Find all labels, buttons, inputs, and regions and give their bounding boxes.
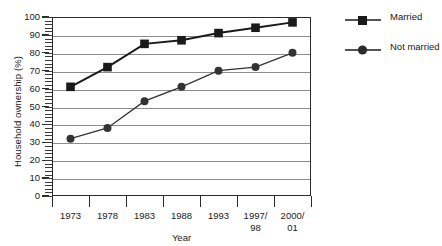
y-minor-tick	[45, 53, 52, 54]
y-minor-tick	[45, 150, 52, 151]
x-axis-tick	[52, 196, 53, 207]
y-minor-tick	[45, 160, 52, 161]
x-axis-title: Year	[52, 232, 311, 243]
y-axis-minor-ticks	[45, 17, 52, 196]
y-minor-tick	[45, 175, 52, 176]
y-tick-label: 70	[10, 66, 40, 76]
x-axis-tick	[200, 196, 201, 207]
y-minor-tick	[45, 196, 52, 197]
data-point	[178, 83, 186, 91]
legend-marker-square-icon	[344, 14, 382, 26]
y-minor-tick	[45, 124, 52, 125]
x-tick-label-line1: 1973	[60, 210, 81, 221]
x-axis-tick	[163, 196, 164, 207]
data-point	[251, 23, 260, 32]
data-point	[177, 36, 186, 45]
data-point	[252, 63, 260, 71]
chart-legend: Married Not married	[344, 8, 442, 68]
legend-label-not-married: Not married	[390, 41, 440, 52]
data-point	[288, 18, 297, 27]
x-tick-label-line1: 2000/	[281, 210, 305, 221]
y-minor-tick	[45, 189, 52, 190]
legend-entry-not-married: Not married	[344, 38, 442, 68]
y-minor-tick	[45, 135, 52, 136]
legend-marker-circle-icon	[344, 44, 382, 56]
y-minor-tick	[45, 110, 52, 111]
x-tick-label-line2: 01	[287, 222, 298, 233]
y-minor-tick	[45, 35, 52, 36]
y-minor-tick	[45, 42, 52, 43]
data-point	[103, 63, 112, 72]
x-tick-label-line1: 1978	[97, 210, 118, 221]
y-minor-tick	[45, 171, 52, 172]
y-minor-tick	[45, 24, 52, 25]
x-tick-label: 1973	[51, 210, 91, 222]
y-minor-tick	[45, 103, 52, 104]
x-tick-label-line1: 1988	[171, 210, 192, 221]
y-tick-label: 10	[10, 173, 40, 183]
x-axis-ticks	[52, 196, 311, 210]
x-axis-tick	[274, 196, 275, 207]
y-minor-tick	[45, 121, 52, 122]
legend-label-married: Married	[390, 11, 422, 22]
y-minor-tick	[45, 31, 52, 32]
data-point	[140, 40, 149, 49]
data-point	[141, 97, 149, 105]
y-minor-tick	[45, 56, 52, 57]
y-minor-tick	[45, 17, 52, 18]
x-axis-tick	[311, 196, 312, 207]
x-axis-tick	[89, 196, 90, 207]
legend-entry-married: Married	[344, 8, 442, 38]
data-point	[214, 29, 223, 38]
y-minor-tick	[45, 146, 52, 147]
y-minor-tick	[45, 178, 52, 179]
y-minor-tick	[45, 71, 52, 72]
y-minor-tick	[45, 78, 52, 79]
y-minor-tick	[45, 85, 52, 86]
y-minor-tick	[45, 64, 52, 65]
y-minor-tick	[45, 21, 52, 22]
x-tick-label-line1: 1997/	[244, 210, 268, 221]
x-tick-label-line2: 98	[250, 222, 261, 233]
x-axis-tick	[126, 196, 127, 207]
y-minor-tick	[45, 67, 52, 68]
y-minor-tick	[45, 185, 52, 186]
y-minor-tick	[45, 74, 52, 75]
y-minor-tick	[45, 139, 52, 140]
y-minor-tick	[45, 60, 52, 61]
y-tick-label: 90	[10, 30, 40, 40]
x-tick-label: 1988	[162, 210, 202, 222]
y-minor-tick	[45, 117, 52, 118]
x-tick-label: 1983	[125, 210, 165, 222]
y-tick-label: 50	[10, 102, 40, 112]
x-tick-label: 1993	[199, 210, 239, 222]
chart-figure: Household ownership (%) 0102030405060708…	[0, 0, 442, 246]
y-tick-label: 60	[10, 84, 40, 94]
x-tick-label: 2000/01	[273, 210, 313, 233]
y-minor-tick	[45, 157, 52, 158]
y-minor-tick	[45, 81, 52, 82]
y-minor-tick	[45, 132, 52, 133]
data-point	[66, 83, 75, 92]
y-minor-tick	[45, 114, 52, 115]
y-minor-tick	[45, 46, 52, 47]
y-minor-tick	[45, 192, 52, 193]
data-point	[104, 124, 112, 132]
y-minor-tick	[45, 128, 52, 129]
y-minor-tick	[45, 89, 52, 90]
y-minor-tick	[45, 28, 52, 29]
y-minor-tick	[45, 99, 52, 100]
data-point	[215, 67, 223, 75]
y-tick-label: 0	[10, 191, 40, 201]
y-minor-tick	[45, 92, 52, 93]
y-minor-tick	[45, 182, 52, 183]
data-point	[289, 49, 297, 57]
y-tick-label: 40	[10, 119, 40, 129]
y-minor-tick	[45, 39, 52, 40]
y-minor-tick	[45, 96, 52, 97]
y-tick-label: 20	[10, 155, 40, 165]
y-minor-tick	[45, 153, 52, 154]
y-minor-tick	[45, 164, 52, 165]
y-tick-label: 30	[10, 137, 40, 147]
x-axis-tick	[237, 196, 238, 207]
